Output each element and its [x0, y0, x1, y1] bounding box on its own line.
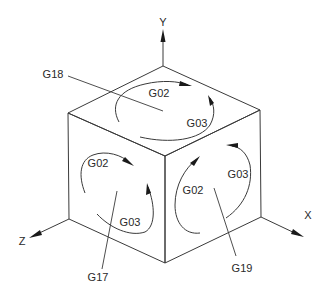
y-axis: Y: [159, 16, 167, 66]
left-plane-leader: G17: [88, 191, 117, 283]
cube-left-face: [68, 113, 165, 263]
left-plane-arcs: G02 G03: [81, 153, 153, 233]
right-plane-label: G19: [232, 262, 253, 274]
right-cw-arc: [175, 159, 200, 233]
right-ccw-arrow-icon: [226, 143, 238, 148]
z-axis-arrow-icon: [29, 230, 42, 238]
right-ccw-label: G03: [228, 168, 249, 180]
right-ccw-arc: [226, 146, 251, 218]
right-cw-label: G02: [183, 184, 204, 196]
x-axis-arrow-icon: [291, 229, 304, 237]
left-plane-label: G17: [88, 271, 109, 283]
right-plane-leader: G19: [214, 188, 252, 274]
x-axis-label: X: [304, 209, 312, 221]
x-axis: X: [261, 209, 312, 237]
z-axis: Z: [19, 219, 69, 247]
top-plane-label: G18: [43, 68, 64, 80]
y-axis-arrow-icon: [161, 29, 166, 42]
top-ccw-label: G03: [187, 117, 208, 129]
top-cw-label: G02: [149, 87, 170, 99]
cube-right-face: [165, 110, 261, 263]
cube-top-face: [68, 66, 260, 156]
top-cw-arrow-icon: [179, 81, 192, 86]
z-axis-label: Z: [19, 235, 26, 247]
left-cw-label: G02: [88, 157, 109, 169]
y-axis-label: Y: [159, 16, 167, 28]
right-plane-arcs: G02 G03: [175, 143, 251, 233]
left-ccw-label: G03: [120, 216, 141, 228]
cnc-plane-cube-diagram: Y Z X G02 G03 G18 G02 G03 G17: [0, 0, 329, 300]
top-plane-arcs: G02 G03: [115, 81, 214, 140]
left-ccw-arrow-icon: [146, 183, 151, 195]
